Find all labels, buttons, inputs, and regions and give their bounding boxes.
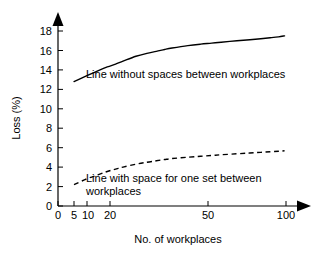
y-tick-label: 2 — [46, 181, 52, 193]
x-tick-label: 50 — [202, 209, 214, 221]
y-axis-tick-labels-group: 0 2 4 6 8 10 12 14 16 18 — [40, 25, 52, 212]
y-tick-label: 18 — [40, 25, 52, 37]
x-tick-label: 20 — [104, 209, 116, 221]
x-tick-label: 10 — [82, 209, 94, 221]
lower-curve-annotation-line2: workplaces — [85, 185, 142, 197]
y-tick-label: 12 — [40, 83, 52, 95]
series-group — [74, 36, 285, 185]
lower-curve-annotation-line1: Line with space for one set between — [86, 172, 262, 184]
y-axis-title: Loss (%) — [10, 96, 22, 139]
x-axis-tick-labels-group: 0 5 10 20 50 100 — [55, 209, 295, 221]
y-axis-up-arrow-head-icon — [53, 12, 64, 26]
upper-curve-annotation: Line without spaces between workplaces — [86, 68, 286, 80]
y-tick-label: 0 — [46, 200, 52, 212]
chart-plot-area: 0 2 4 6 8 10 12 14 16 18 0 5 10 20 50 10… — [0, 0, 323, 257]
y-tick-label: 4 — [46, 161, 52, 173]
y-tick-label: 14 — [40, 64, 52, 76]
chart-container: 0 2 4 6 8 10 12 14 16 18 0 5 10 20 50 10… — [0, 0, 323, 257]
x-axis-title: No. of workplaces — [134, 233, 222, 245]
x-axis-right-arrow-head-icon — [297, 201, 311, 212]
y-tick-label: 16 — [40, 45, 52, 57]
x-tick-label: 100 — [277, 209, 295, 221]
x-tick-label: 5 — [71, 209, 77, 221]
x-axis-ticks-group — [58, 201, 286, 206]
y-tick-label: 6 — [46, 142, 52, 154]
y-tick-label: 10 — [40, 103, 52, 115]
y-axis-ticks-group — [58, 31, 63, 206]
annotations-group: Line without spaces between workplaces L… — [85, 68, 286, 197]
y-tick-label: 8 — [46, 122, 52, 134]
x-tick-label: 0 — [55, 209, 61, 221]
